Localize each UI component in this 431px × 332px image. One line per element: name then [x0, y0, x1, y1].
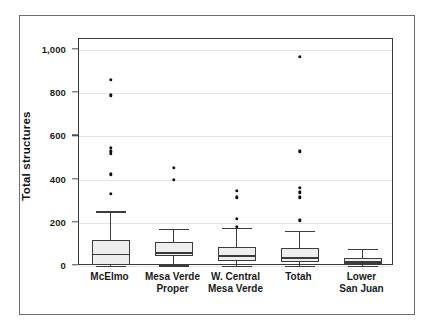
- boxplot-upper-cap: [96, 211, 126, 212]
- boxplot-box: [218, 247, 256, 261]
- boxplot-median-line: [344, 261, 382, 262]
- boxplot-lower-cap: [159, 265, 189, 266]
- x-axis-category-label: Mesa Verde Proper: [141, 271, 204, 294]
- gridline: [79, 93, 392, 94]
- gridline: [79, 50, 392, 51]
- boxplot-outlier-point: [235, 196, 238, 199]
- boxplot-upper-cap: [159, 229, 189, 230]
- boxplot-lower-whisker: [173, 256, 174, 266]
- y-axis-tick-label: 600: [4, 130, 66, 141]
- boxplot-outlier-point: [298, 191, 301, 194]
- boxplot-upper-cap: [348, 249, 378, 250]
- boxplot-outlier-point: [109, 146, 112, 149]
- boxplot-outlier-point: [235, 217, 238, 220]
- x-axis-category-label: Lower San Juan: [330, 271, 393, 294]
- boxplot-median-line: [155, 252, 193, 253]
- boxplot-upper-whisker: [110, 211, 111, 239]
- x-axis-category-label: W. Central Mesa Verde: [204, 271, 267, 294]
- y-axis-tick-mark: [72, 264, 78, 265]
- boxplot-outlier-point: [172, 178, 175, 181]
- x-axis-category-label: McElmo: [78, 271, 141, 283]
- y-axis-tick-mark: [72, 91, 78, 92]
- boxplot-lower-cap: [285, 266, 315, 267]
- boxplot-lower-cap: [222, 266, 252, 267]
- boxplot-outlier-point: [298, 55, 301, 58]
- boxplot-upper-whisker: [299, 231, 300, 248]
- y-axis-tick-label: 0: [4, 260, 66, 271]
- boxplot-upper-whisker: [362, 249, 363, 258]
- boxplot-outlier-point: [298, 150, 301, 153]
- boxplot-median-line: [92, 254, 130, 255]
- gridline: [79, 223, 392, 224]
- boxplot-upper-whisker: [236, 228, 237, 247]
- boxplot-outlier-point: [109, 94, 112, 97]
- boxplot-lower-cap: [96, 266, 126, 267]
- boxplot-box: [92, 240, 130, 265]
- plot-area: [78, 38, 393, 265]
- y-axis-tick-label: 1,000: [4, 43, 66, 54]
- y-axis-tick-mark: [72, 221, 78, 222]
- boxplot-upper-cap: [285, 231, 315, 232]
- boxplot-outlier-point: [172, 166, 175, 169]
- boxplot-box: [281, 248, 319, 262]
- boxplot-outlier-point: [298, 196, 301, 199]
- y-axis-tick-label: 800: [4, 87, 66, 98]
- boxplot-median-line: [218, 255, 256, 256]
- y-axis-tick-label: 200: [4, 216, 66, 227]
- y-axis-tick-mark: [72, 48, 78, 49]
- x-axis-category-label: Totah: [267, 271, 330, 283]
- gridline: [79, 180, 392, 181]
- boxplot-outlier-point: [109, 192, 112, 195]
- y-axis-tick-mark: [72, 135, 78, 136]
- boxplot-outlier-point: [109, 78, 112, 81]
- boxplot-outlier-point: [235, 189, 238, 192]
- boxplot-median-line: [281, 257, 319, 258]
- y-axis-tick-mark: [72, 178, 78, 179]
- boxplot-lower-cap: [348, 266, 378, 267]
- boxplot-outlier-point: [298, 218, 301, 221]
- boxplot-upper-whisker: [173, 229, 174, 243]
- boxplot-outlier-point: [298, 186, 301, 189]
- boxplot-outlier-point: [109, 172, 112, 175]
- y-axis-tick-label: 400: [4, 173, 66, 184]
- boxplot-figure: Total structures 02004006008001,000 McEl…: [0, 0, 431, 332]
- gridline: [79, 136, 392, 137]
- y-axis-tick-labels: 02004006008001,000: [0, 0, 72, 332]
